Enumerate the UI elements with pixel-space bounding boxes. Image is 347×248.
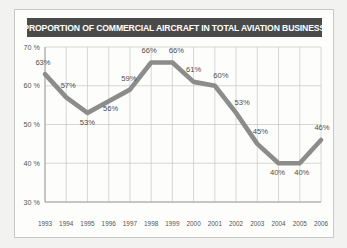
data-point-label: 56% [103,104,118,113]
y-axis-tick-label: 30 % [24,198,41,207]
y-axis-tick-label: 50 % [24,120,41,129]
x-axis-tick-label: 2000 [187,220,202,227]
data-point-label: 60% [213,71,228,80]
data-point-label: 59% [121,74,136,83]
x-axis-tick-label: 2005 [293,220,308,227]
data-point-label: 53% [80,118,95,127]
x-axis-ticks: 1993199419951996199719981999200020012002… [38,220,329,227]
plot-area: 30 %40 %50 %60 %70 % 1993199419951996199… [14,40,334,238]
x-axis-tick-label: 1998 [144,220,159,227]
chart-title-banner: PROPORTION OF COMMERCIAL AIRCRAFT IN TOT… [27,18,322,37]
x-axis-tick-label: 1995 [80,220,95,227]
data-point-label: 57% [61,81,76,90]
line-chart-svg: 30 %40 %50 %60 %70 % 1993199419951996199… [14,40,334,238]
x-axis-tick-label: 2006 [314,220,329,227]
data-point-label: 61% [186,65,201,74]
y-axis-tick-label: 60 % [24,81,41,90]
data-series-line [45,63,321,164]
x-axis-tick-label: 2002 [229,220,244,227]
data-point-label: 40% [294,168,309,177]
y-axis-tick-label: 40 % [24,159,41,168]
x-axis-tick-label: 1996 [102,220,117,227]
x-axis-tick-label: 2003 [250,220,265,227]
data-point-label: 66% [142,46,157,55]
data-point-labels: 63%57%53%56%59%66%66%61%60%53%45%40%40%4… [35,46,329,178]
data-point-label: 53% [234,98,249,107]
data-point-label: 66% [169,46,184,55]
chart-figure: PROPORTION OF COMMERCIAL AIRCRAFT IN TOT… [0,0,347,248]
x-axis-tick-label: 1999 [165,220,180,227]
y-axis-tick-label: 70 % [24,43,41,52]
data-point-label: 40% [270,168,285,177]
x-axis-tick-label: 1993 [38,220,53,227]
data-point-label: 45% [253,127,268,136]
data-point-label: 46% [314,123,329,132]
data-point-label: 63% [35,58,50,67]
x-axis-tick-label: 1997 [123,220,138,227]
y-axis-ticks: 30 %40 %50 %60 %70 % [24,43,41,207]
x-axis-tick-label: 2001 [208,220,223,227]
series-line [45,63,321,164]
x-axis-tick-label: 1994 [59,220,74,227]
x-axis-tick-label: 2004 [271,220,286,227]
page-title: PROPORTION OF COMMERCIAL AIRCRAFT IN TOT… [24,23,326,33]
